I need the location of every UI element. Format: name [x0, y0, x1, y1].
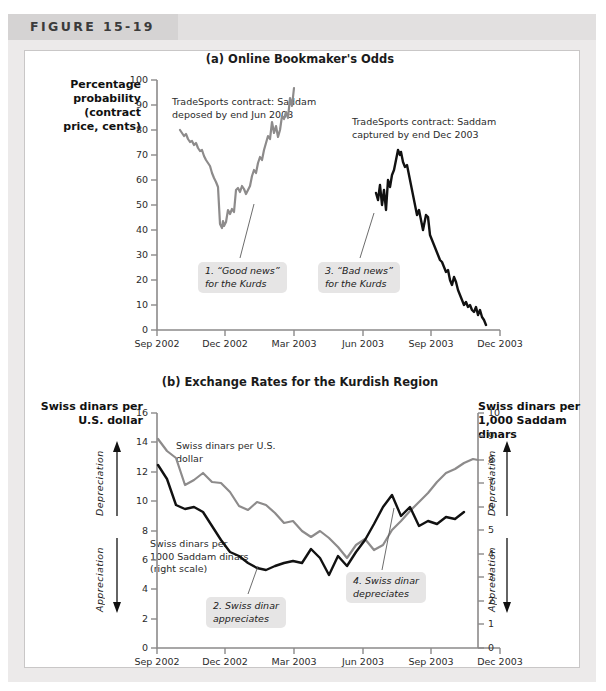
- panel-b-left-ytick-12: 12: [122, 466, 148, 477]
- panel-b-right-ytick-9: 9: [488, 430, 514, 441]
- panel-b-xtick-sep2002: Sep 2002: [122, 656, 192, 667]
- panel-b-callout-2-leader: [248, 566, 258, 594]
- panel-b-xtick-dec2002: Dec 2002: [190, 656, 260, 667]
- panel-b-right-ytick-3: 3: [488, 571, 514, 582]
- panel-b-xtick-mar2003: Mar 2003: [259, 656, 329, 667]
- panel-b-left-y-ticks: [151, 413, 157, 648]
- panel-b-right-ytick-1: 1: [488, 618, 514, 629]
- panel-b-left-ytick-4: 4: [122, 583, 148, 594]
- panel-b-right-ytick-2: 2: [488, 595, 514, 606]
- panel-b-callout-4-leader: [382, 508, 394, 570]
- panel-b-right-ytick-8: 8: [488, 454, 514, 465]
- panel-b-right-ytick-10: 10: [488, 407, 514, 418]
- panel-b-xtick-sep2003: Sep 2003: [396, 656, 466, 667]
- panel-b-left-ytick-2: 2: [122, 613, 148, 624]
- panel-b-series-usd: [158, 439, 478, 558]
- panel-b-left-ytick-6: 6: [122, 554, 148, 565]
- panel-b-x-ticks: [157, 648, 500, 654]
- panel-b-right-ytick-7: 7: [488, 477, 514, 488]
- panel-b-left-ytick-14: 14: [122, 436, 148, 447]
- panel-b-series-saddam: [158, 465, 464, 575]
- panel-b-plot: [0, 0, 606, 691]
- panel-b-direction-arrows-left: [113, 441, 121, 613]
- panel-b-left-ytick-16: 16: [122, 407, 148, 418]
- panel-b-right-ytick-4: 4: [488, 548, 514, 559]
- panel-b-left-ytick-0: 0: [122, 642, 148, 653]
- panel-b-left-ytick-10: 10: [122, 495, 148, 506]
- panel-b-right-ytick-6: 6: [488, 501, 514, 512]
- panel-b-left-ytick-8: 8: [122, 525, 148, 536]
- figure-page: FIGURE 15-19 (a) Online Bookmaker's Odds…: [0, 0, 606, 691]
- panel-b-xtick-jun2003: Jun 2003: [328, 656, 398, 667]
- panel-b-right-ytick-5: 5: [488, 524, 514, 535]
- panel-b-right-y-ticks: [478, 413, 484, 648]
- panel-b-xtick-dec2003: Dec 2003: [465, 656, 535, 667]
- panel-b-right-ytick-0: 0: [488, 642, 514, 653]
